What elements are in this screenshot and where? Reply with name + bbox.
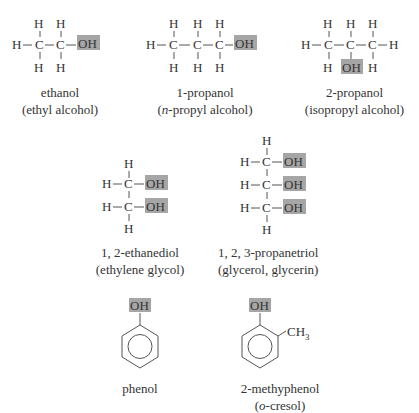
1-propanol-common-name: (n-propyl alcohol)	[140, 101, 270, 118]
svg-text:OH: OH	[284, 177, 303, 192]
svg-text:H: H	[262, 222, 271, 237]
svg-text:C: C	[169, 37, 178, 52]
phenol-caption: phenol	[100, 380, 180, 397]
2-propanol-common-name: (isopropyl alcohol)	[292, 101, 417, 118]
alcohol-structures-diagram: H H H C C OH H H H H H H C C C OH	[0, 0, 419, 413]
ethanol-name: ethanol	[10, 84, 110, 101]
svg-text:C: C	[368, 37, 377, 52]
ethanol-common-name: (ethyl alcohol)	[10, 101, 110, 118]
svg-text:OH: OH	[250, 298, 269, 313]
svg-text:C: C	[215, 37, 224, 52]
svg-text:H: H	[301, 37, 310, 52]
phenol-structure: OH	[122, 298, 158, 368]
svg-text:C: C	[262, 177, 271, 192]
svg-text:H: H	[240, 200, 249, 215]
glycerol-name: 1, 2, 3-propanetriol	[218, 244, 348, 261]
svg-text:H: H	[146, 37, 155, 52]
svg-text:OH: OH	[342, 60, 361, 75]
svg-text:H: H	[368, 16, 377, 31]
svg-text:OH: OH	[235, 36, 254, 51]
svg-text:OH: OH	[284, 200, 303, 215]
svg-text:C: C	[56, 37, 65, 52]
svg-text:H: H	[169, 16, 178, 31]
svg-text:H: H	[262, 133, 271, 148]
o-cresol-caption: 2-methyphenol (o-cresol)	[225, 380, 335, 413]
benzene-ring	[122, 325, 158, 368]
svg-text:OH: OH	[130, 298, 149, 313]
svg-text:H: H	[56, 60, 65, 75]
ethylene-glycol-name: 1, 2-ethanediol	[85, 244, 195, 261]
svg-text:H: H	[34, 16, 43, 31]
1-propanol-caption: 1-propanol (n-propyl alcohol)	[140, 84, 270, 118]
svg-text:C: C	[124, 199, 133, 214]
svg-text:C: C	[35, 37, 44, 52]
svg-text:H: H	[124, 221, 133, 236]
svg-text:H: H	[323, 16, 332, 31]
svg-text:OH: OH	[146, 176, 165, 191]
ethylene-glycol-structure: H H C OH H C OH H	[102, 156, 168, 236]
svg-text:H: H	[193, 16, 202, 31]
svg-text:H: H	[102, 176, 111, 191]
svg-text:H: H	[124, 156, 133, 171]
svg-text:H: H	[193, 60, 202, 75]
1-propanol-structure: H H H H C C C OH H H H	[146, 16, 257, 75]
o-cresol-common-name: (o-cresol)	[225, 397, 335, 413]
ethylene-glycol-common-name: (ethylene glycol)	[85, 261, 195, 278]
svg-text:C: C	[324, 37, 333, 52]
svg-text:H: H	[240, 177, 249, 192]
svg-text:H: H	[12, 37, 21, 52]
2-propanol-structure: H H H H C C C H H OH H	[301, 16, 398, 75]
benzene-ring	[242, 325, 278, 368]
svg-text:C: C	[262, 154, 271, 169]
phenol-name: phenol	[100, 380, 180, 397]
glycerol-caption: 1, 2, 3-propanetriol (glycerol, glycerin…	[218, 244, 348, 278]
svg-text:3: 3	[305, 332, 310, 342]
svg-text:CH: CH	[287, 324, 305, 339]
glycerol-common-name: (glycerol, glycerin)	[218, 261, 348, 278]
svg-text:H: H	[389, 37, 398, 52]
svg-text:OH: OH	[284, 154, 303, 169]
svg-text:H: H	[240, 154, 249, 169]
o-cresol-name: 2-methyphenol	[225, 380, 335, 397]
1-propanol-name: 1-propanol	[140, 84, 270, 101]
svg-text:H: H	[368, 60, 377, 75]
ethanol-caption: ethanol (ethyl alcohol)	[10, 84, 110, 118]
svg-text:H: H	[34, 60, 43, 75]
o-cresol-structure: OH CH 3	[242, 298, 310, 368]
svg-text:H: H	[102, 199, 111, 214]
svg-text:C: C	[262, 200, 271, 215]
svg-text:C: C	[193, 37, 202, 52]
svg-text:H: H	[215, 60, 224, 75]
ethylene-glycol-caption: 1, 2-ethanediol (ethylene glycol)	[85, 244, 195, 278]
svg-text:H: H	[56, 16, 65, 31]
svg-text:C: C	[346, 37, 355, 52]
svg-text:OH: OH	[146, 199, 165, 214]
svg-text:H: H	[169, 60, 178, 75]
ethanol-structure: H H H C C OH H H	[12, 16, 100, 75]
2-propanol-name: 2-propanol	[292, 84, 417, 101]
svg-text:H: H	[346, 16, 355, 31]
glycerol-structure: H H C OH H C OH H C OH H	[240, 133, 306, 237]
svg-text:H: H	[323, 60, 332, 75]
svg-text:H: H	[215, 16, 224, 31]
svg-text:OH: OH	[78, 36, 97, 51]
2-propanol-caption: 2-propanol (isopropyl alcohol)	[292, 84, 417, 118]
svg-text:C: C	[124, 176, 133, 191]
